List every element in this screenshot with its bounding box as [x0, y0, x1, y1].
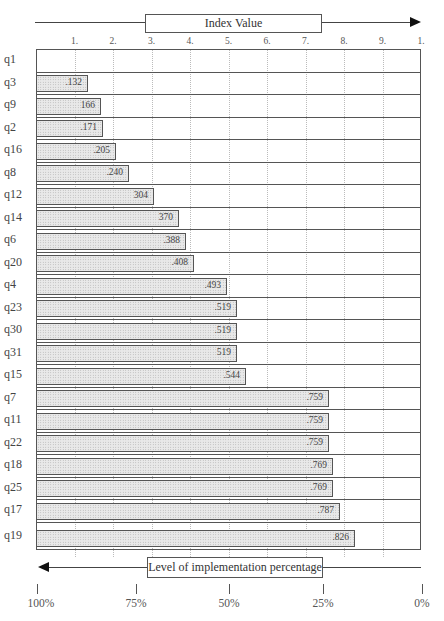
percentage-tick-label: 25%: [312, 597, 333, 609]
percentage-tick-label: 75%: [125, 597, 146, 609]
percentage-tick-label: 0%: [414, 597, 429, 609]
bar: .408: [37, 255, 194, 272]
bar: 166: [37, 98, 101, 115]
top-tick-label: 1.: [71, 36, 78, 46]
bar: .388: [37, 233, 186, 250]
row-divider: [36, 72, 421, 73]
bar-value-label: .205: [93, 145, 110, 155]
row-label: q7: [4, 390, 32, 405]
row-label: q9: [4, 97, 32, 112]
row-divider: [36, 229, 421, 230]
top-tick-label: 5.: [225, 36, 232, 46]
row-label: q25: [4, 480, 32, 495]
row-divider: [36, 184, 421, 185]
bar: .493: [37, 278, 227, 295]
row-label: q3: [4, 75, 32, 90]
index-value-title: Index Value: [145, 14, 322, 33]
bar: .171: [37, 120, 103, 137]
top-tick-label: 7.: [302, 36, 309, 46]
row-label: q6: [4, 232, 32, 247]
row-divider: [36, 319, 421, 320]
bar: .769: [37, 458, 333, 475]
row-label: q8: [4, 165, 32, 180]
row-divider: [36, 252, 421, 253]
row-divider: [36, 432, 421, 433]
row-label: q15: [4, 367, 32, 382]
row-label: q22: [4, 435, 32, 450]
row-label: q4: [4, 277, 32, 292]
row-divider: [36, 297, 421, 298]
bar: .759: [37, 435, 329, 452]
bar: .519: [37, 300, 237, 317]
top-tick-label: 2.: [109, 36, 116, 46]
bar-value-label: .519: [214, 302, 231, 312]
row-divider: [36, 454, 421, 455]
top-tick-label: 4.: [186, 36, 193, 46]
percentage-tick: [422, 584, 423, 594]
row-divider: [36, 274, 421, 275]
percentage-tick: [37, 584, 38, 594]
bar-value-label: 370: [159, 212, 173, 222]
bar-value-label: 519: [217, 347, 231, 357]
row-divider: [36, 499, 421, 500]
bar-value-label: .759: [306, 415, 323, 425]
row-divider: [36, 342, 421, 343]
row-label: q20: [4, 255, 32, 270]
bar-value-label: .769: [310, 460, 327, 470]
row-divider: [36, 522, 421, 523]
bar: 304: [37, 188, 154, 205]
bar: .519: [37, 323, 237, 340]
percentage-tick: [229, 584, 230, 594]
row-divider: [36, 207, 421, 208]
row-divider: [36, 387, 421, 388]
top-tick-label: 1.: [417, 36, 424, 46]
bar: .759: [37, 390, 329, 407]
row-label: q31: [4, 345, 32, 360]
bar: .787: [37, 503, 340, 520]
percentage-tick: [136, 584, 137, 594]
row-divider: [36, 94, 421, 95]
top-tick-label: 8.: [340, 36, 347, 46]
row-label: q23: [4, 300, 32, 315]
row-label: q14: [4, 210, 32, 225]
bar-value-label: 166: [81, 100, 95, 110]
row-label: q12: [4, 187, 32, 202]
arrow-right-icon: [410, 17, 421, 27]
percentage-tick: [323, 584, 324, 594]
bar: .205: [37, 143, 116, 160]
bar: 370: [37, 210, 179, 227]
row-divider: [36, 162, 421, 163]
bar-value-label: .408: [171, 257, 188, 267]
row-divider: [36, 477, 421, 478]
bar-value-label: .493: [204, 280, 221, 290]
bar-value-label: .132: [65, 77, 82, 87]
bar: .544: [37, 368, 246, 385]
bar: .759: [37, 413, 329, 430]
row-label: q18: [4, 457, 32, 472]
implementation-percentage-title: Level of implementation percentage: [147, 557, 323, 578]
bar-value-label: .759: [306, 437, 323, 447]
top-tick-label: 9.: [379, 36, 386, 46]
row-divider: [36, 409, 421, 410]
bar-value-label: .544: [223, 370, 240, 380]
bar-value-label: .759: [306, 392, 323, 402]
bar-value-label: .787: [317, 505, 334, 515]
row-divider: [36, 139, 421, 140]
row-label: q30: [4, 322, 32, 337]
bar-value-label: .240: [106, 167, 123, 177]
row-divider: [36, 117, 421, 118]
bar-value-label: .769: [310, 482, 327, 492]
bar-value-label: .388: [163, 235, 180, 245]
percentage-tick-label: 100%: [28, 597, 55, 609]
top-tick-label: 3.: [148, 36, 155, 46]
row-divider: [36, 364, 421, 365]
row-label: q17: [4, 502, 32, 517]
bar: .132: [37, 75, 88, 92]
row-label: q1: [4, 52, 32, 67]
bar-value-label: .519: [214, 325, 231, 335]
bar-value-label: .171: [80, 122, 97, 132]
bar: .240: [37, 165, 129, 182]
percentage-tick-label: 50%: [218, 597, 239, 609]
row-label: q16: [4, 142, 32, 157]
bar: .769: [37, 480, 333, 497]
